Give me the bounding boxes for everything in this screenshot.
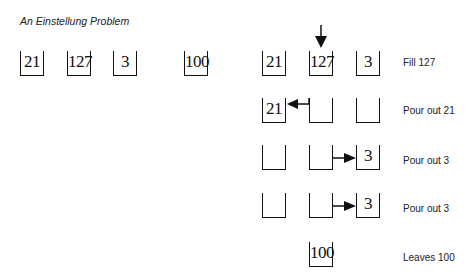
pour-right-arrow-icon xyxy=(333,201,356,211)
fill-arrow-icon xyxy=(315,25,327,48)
pour-left-arrow-icon xyxy=(287,98,309,109)
arrows-layer xyxy=(0,0,467,278)
pour-right-arrow-icon xyxy=(333,153,356,163)
